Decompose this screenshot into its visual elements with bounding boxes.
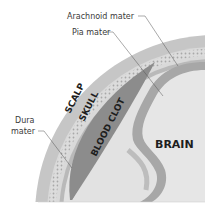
arachnoid-callout: Arachnoid mater <box>67 12 135 21</box>
dura-callout-line2: mater <box>11 127 36 136</box>
subdural-hematoma-diagram: SCALP SKULL BLOOD CLOT BRAIN Arachnoid m… <box>0 0 213 213</box>
pia-callout: Pia mater <box>72 28 111 37</box>
dura-callout-line1: Dura <box>15 116 35 125</box>
brain-label: BRAIN <box>155 138 194 151</box>
